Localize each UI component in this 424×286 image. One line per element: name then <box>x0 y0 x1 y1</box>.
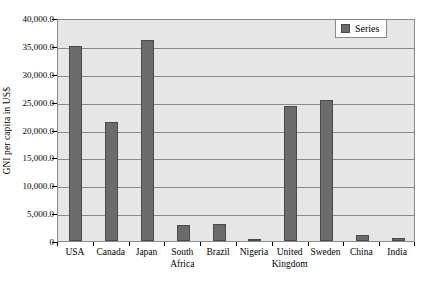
bar-chart: GNI per capita in US$ 40,000.035,000.030… <box>0 0 424 286</box>
x-axis-tick-mark <box>272 242 273 246</box>
plot-area <box>57 19 415 242</box>
x-axis-tick-label: India <box>387 247 407 259</box>
x-axis-tick-mark <box>236 242 237 246</box>
x-axis-tick-mark <box>343 242 344 246</box>
bar <box>141 40 154 241</box>
y-axis-tick-label: 30,000.0 <box>23 70 55 80</box>
bar <box>320 100 333 241</box>
legend-label: Series <box>355 23 379 34</box>
x-axis-tick-mark <box>379 242 380 246</box>
y-axis-tick-label: 25,000.0 <box>23 98 55 108</box>
bar <box>69 46 82 241</box>
x-axis-tick-label: Canada <box>96 247 125 259</box>
x-axis-tick-mark <box>129 242 130 246</box>
bar <box>105 122 118 241</box>
x-axis-tick-mark <box>414 242 415 246</box>
x-axis-tick-label: China <box>350 247 373 259</box>
bar <box>392 238 405 241</box>
x-axis-tick-labels: USACanadaJapanSouth AfricaBrazilNigeriaU… <box>57 247 415 286</box>
bar <box>356 235 369 241</box>
y-axis-tick-labels: 40,000.035,000.030,000.025,000.020,000.0… <box>12 0 56 262</box>
legend-swatch-icon <box>341 24 350 33</box>
x-axis-ticks <box>57 242 415 246</box>
y-axis-tick-label: 40,000.0 <box>23 14 55 24</box>
chart-legend: Series <box>335 19 387 38</box>
bar <box>248 239 261 241</box>
x-axis-tick-label: Sweden <box>310 247 340 259</box>
y-axis-tick-label: 35,000.0 <box>23 42 55 52</box>
y-axis-tick-label: 20,000.0 <box>23 126 55 136</box>
bars-group <box>58 20 414 241</box>
x-axis-tick-label: USA <box>65 247 84 259</box>
y-axis-title-text: GNI per capita in US$ <box>2 87 12 175</box>
x-axis-tick-label: United Kingdom <box>272 247 308 270</box>
y-axis-tick-label: 15,000.0 <box>23 153 55 163</box>
bar <box>177 225 190 241</box>
bar <box>284 106 297 241</box>
x-axis-tick-label: Nigeria <box>240 247 269 259</box>
x-axis-tick-mark <box>200 242 201 246</box>
x-axis-tick-mark <box>57 242 58 246</box>
x-axis-tick-label: Japan <box>136 247 158 259</box>
x-axis-tick-label: Brazil <box>206 247 229 259</box>
x-axis-tick-mark <box>164 242 165 246</box>
x-axis-tick-label: South Africa <box>170 247 194 270</box>
bar <box>213 224 226 241</box>
y-axis-tick-label: 5,000.0 <box>27 209 54 219</box>
x-axis-tick-mark <box>308 242 309 246</box>
x-axis-tick-mark <box>93 242 94 246</box>
y-axis-tick-label: 10,000.0 <box>23 181 55 191</box>
